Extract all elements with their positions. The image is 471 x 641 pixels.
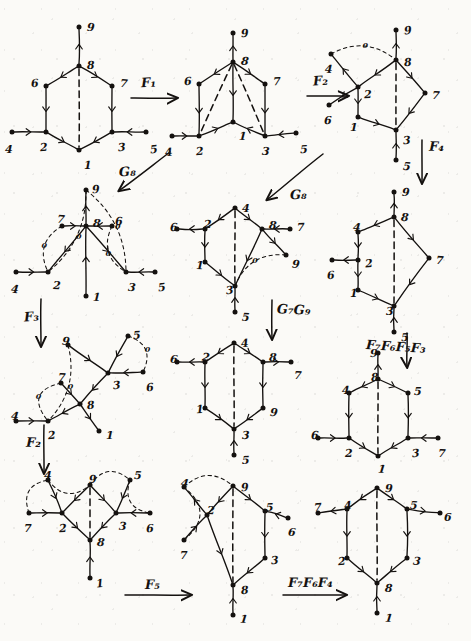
graph-node: [284, 253, 289, 258]
node-label-9: 9: [385, 483, 393, 494]
graph-node: [394, 128, 399, 133]
graph-node: [153, 270, 158, 275]
edge-label-zero: 0: [36, 392, 42, 400]
graph-node: [327, 103, 332, 108]
graph-edge: [395, 260, 427, 304]
node-label-2: 2: [204, 219, 212, 230]
node-label-1: 1: [384, 613, 393, 625]
node-label-6: 6: [311, 430, 319, 441]
graph-edge: [349, 560, 375, 582]
node-label-3: 3: [242, 430, 250, 441]
graph-node: [197, 134, 202, 139]
graph-edge: [380, 439, 406, 455]
operator-label: F₃: [24, 310, 40, 324]
graph-node: [110, 84, 115, 89]
operator-label: G₈: [290, 188, 307, 201]
node-label-9: 9: [241, 482, 249, 493]
node-label-6: 6: [146, 523, 154, 534]
node-label-8: 8: [404, 57, 412, 69]
node-label-5: 5: [300, 144, 308, 155]
node-label-7: 7: [297, 222, 305, 233]
node-label-6: 6: [145, 382, 154, 394]
node-label-2: 2: [345, 448, 353, 459]
node-label-8: 8: [240, 56, 249, 68]
graph-edge: [201, 123, 231, 135]
graph-node: [60, 511, 65, 516]
graph-node: [126, 334, 131, 339]
graph-node: [356, 85, 361, 90]
graph-node: [423, 91, 428, 96]
diagram-canvas: [0, 0, 471, 641]
node-label-8: 8: [97, 537, 105, 549]
graph-node: [394, 158, 399, 163]
graph-node: [97, 429, 102, 434]
graph-row1-col1: [10, 25, 149, 153]
graph-edge: [349, 489, 375, 507]
node-label-4: 4: [165, 147, 174, 159]
node-label-9: 9: [61, 336, 70, 348]
edge-label-zero: 0: [68, 382, 74, 390]
graph-row4-col3: [316, 486, 443, 616]
graph-row2-col3: [330, 190, 432, 335]
graph-arc-dashed: [86, 190, 126, 272]
node-label-4: 4: [5, 144, 13, 155]
graph-edge: [207, 409, 232, 427]
node-label-4: 4: [10, 411, 19, 423]
node-label-5: 5: [414, 386, 422, 397]
graph-edge: [379, 560, 405, 582]
graph-node: [394, 58, 399, 63]
graph-node: [394, 28, 399, 33]
graph-node: [347, 436, 352, 441]
node-label-1: 1: [106, 430, 114, 441]
node-label-5: 5: [410, 500, 418, 511]
node-label-7: 7: [56, 214, 65, 226]
graph-edge: [64, 515, 89, 539]
graph-edge: [360, 218, 392, 231]
graph-edge: [351, 439, 376, 454]
edge-label-zero: 0: [76, 232, 82, 240]
node-label-6: 6: [169, 354, 178, 366]
operator-label: F₂: [313, 74, 329, 88]
node-label-1: 1: [95, 578, 104, 590]
graph-edge: [81, 133, 110, 149]
graph-node: [77, 148, 82, 153]
graph-edge: [70, 346, 106, 371]
graph-node: [170, 134, 175, 139]
node-label-5: 5: [403, 161, 412, 173]
node-label-6: 6: [444, 512, 452, 523]
graph-node: [427, 256, 432, 261]
graph-node: [106, 371, 111, 376]
graph-node: [78, 402, 83, 407]
node-label-8: 8: [93, 218, 101, 229]
graph-arc-dashed: [27, 480, 48, 513]
node-label-7: 7: [436, 255, 444, 266]
node-label-5: 5: [149, 144, 158, 156]
node-label-9: 9: [291, 259, 300, 271]
node-label-8: 8: [241, 585, 250, 597]
graph-node: [260, 227, 265, 232]
node-label-1: 1: [350, 288, 358, 299]
graph-node: [436, 436, 441, 441]
node-label-1: 1: [196, 260, 204, 271]
graph-node: [261, 406, 266, 411]
graph-node: [110, 130, 115, 135]
graph-node: [231, 120, 236, 125]
graph-arc-dashed: [128, 480, 150, 513]
graph-row4-col1: [27, 471, 153, 580]
edge-label-zero: 0: [105, 249, 111, 257]
graph-node: [233, 206, 238, 211]
node-label-4: 4: [343, 500, 352, 512]
node-label-7: 7: [273, 76, 281, 87]
edge-label-zero: 0: [145, 345, 151, 353]
graph-row3-col3: [316, 351, 441, 459]
node-label-2: 2: [338, 556, 346, 567]
graph-node: [10, 130, 15, 135]
operator-label: F₁: [141, 76, 156, 90]
node-label-3: 3: [128, 282, 137, 294]
graph-node: [438, 511, 443, 516]
graph-node: [88, 538, 93, 543]
graph-edge: [48, 133, 77, 149]
graph-edge-dashed: [200, 65, 231, 134]
graph-node: [128, 478, 133, 483]
graph-edge: [360, 291, 392, 305]
